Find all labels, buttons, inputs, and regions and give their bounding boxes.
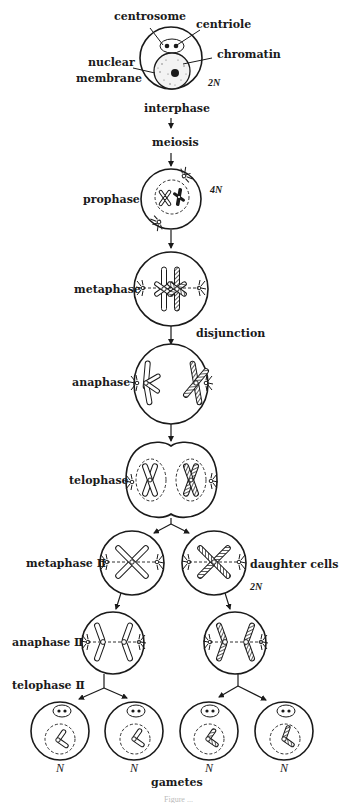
label-metaphase: metaphase <box>74 283 141 296</box>
ploidy-gamete-1: N <box>55 761 65 775</box>
figure-caption: Figure ... <box>164 795 193 803</box>
metaphase-ii-cell-left <box>100 531 164 595</box>
label-telophase-ii: telophase Ⅱ <box>12 679 85 692</box>
label-daughter-cells: daughter cells <box>250 558 338 571</box>
label-anaphase-ii: anaphase Ⅱ <box>12 636 83 649</box>
label-anaphase: anaphase <box>72 376 130 389</box>
label-interphase: interphase <box>144 102 210 115</box>
anaphase-cell <box>130 344 213 424</box>
gamete-cell-4 <box>255 702 313 760</box>
gamete-cell-1 <box>31 702 89 760</box>
telophase-cell <box>125 442 218 517</box>
anaphase-ii-cell-left <box>81 612 146 674</box>
label-nuclear-membrane-1: nuclear <box>88 56 135 69</box>
label-chromatin: chromatin <box>217 48 281 61</box>
anaphase-ii-cell-right <box>203 612 268 674</box>
centriole-shape <box>165 44 170 49</box>
label-meiosis: meiosis <box>152 136 199 149</box>
meiosis-diagram: centrosome centriole chromatin nuclear m… <box>0 0 341 803</box>
label-nuclear-membrane-2: membrane <box>76 72 142 85</box>
interphase-cell <box>133 27 212 89</box>
ploidy-gamete-3: N <box>204 761 214 775</box>
ploidy-prophase: 4N <box>209 184 223 195</box>
metaphase-cell <box>134 252 208 326</box>
metaphase-ii-cell-right <box>182 531 246 595</box>
ploidy-daughter-cells: 2N <box>249 581 263 592</box>
ploidy-gamete-2: N <box>129 761 139 775</box>
label-prophase: prophase <box>83 193 140 206</box>
label-centrosome: centrosome <box>114 10 186 23</box>
ploidy-gamete-4: N <box>279 761 289 775</box>
prophase-cell <box>141 166 201 233</box>
label-metaphase-ii: metaphase Ⅱ <box>26 557 106 570</box>
label-telophase: telophase <box>69 474 129 487</box>
ploidy-interphase: 2N <box>207 77 221 88</box>
label-disjunction: disjunction <box>196 327 265 340</box>
label-gametes: gametes <box>151 776 203 789</box>
label-centriole: centriole <box>196 18 251 31</box>
gamete-cell-2 <box>105 702 163 760</box>
gamete-cell-3 <box>180 702 238 760</box>
